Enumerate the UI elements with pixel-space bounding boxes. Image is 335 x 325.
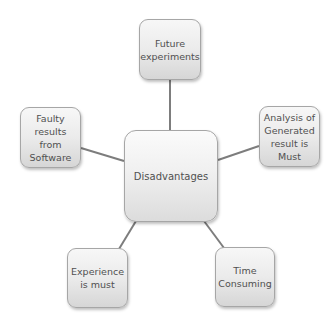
node-time-consuming: Time Consuming [215,247,275,307]
node-center-disadvantages: Disadvantages [124,130,218,222]
node-label: Experience is must [71,265,124,291]
node-label: Faulty results from Software [30,112,72,164]
node-label: Future experiments [140,37,200,63]
connector-center-to-left [81,148,124,161]
node-future-experiments: Future experiments [139,19,201,80]
node-label: Analysis of Generated result is Must [264,111,315,163]
node-faulty-results-from-software: Faulty results from Software [20,107,81,168]
node-analysis-of-generated-result: Analysis of Generated result is Must [259,106,320,167]
connector-center-to-bottom-left [119,221,136,249]
node-label: Time Consuming [218,264,271,290]
center-label: Disadvantages [134,170,208,183]
connector-center-to-bottom-right [204,221,224,248]
node-experience-is-must: Experience is must [67,248,128,308]
connector-center-to-right [218,146,259,160]
